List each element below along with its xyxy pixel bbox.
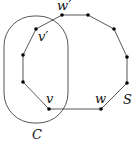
label-v: v xyxy=(46,91,54,106)
vertex-w xyxy=(99,107,103,111)
vertex xyxy=(21,53,25,57)
region-c xyxy=(4,16,68,123)
label-v-prime: v′ xyxy=(38,29,48,44)
label-w-prime: w′ xyxy=(57,0,71,13)
vertex xyxy=(125,81,129,85)
vertex-w-prime xyxy=(60,13,64,17)
label-w: w xyxy=(95,91,106,106)
label-c: C xyxy=(32,127,42,142)
vertex-v xyxy=(47,107,51,111)
diagram-canvas: w′ v′ v w S C xyxy=(0,0,134,142)
vertex xyxy=(112,27,116,31)
vertices xyxy=(21,13,129,111)
label-s: S xyxy=(123,92,132,107)
vertex xyxy=(125,55,129,59)
vertex xyxy=(21,80,25,84)
vertex xyxy=(86,13,90,17)
